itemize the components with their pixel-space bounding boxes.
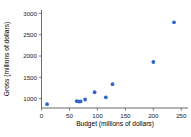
x-tick-label: 150 (120, 112, 131, 119)
y-tick-label: 3000 (23, 10, 37, 17)
axes-group (42, 10, 189, 108)
data-point (172, 20, 176, 24)
y-tick-label: 1000 (23, 95, 37, 102)
x-tick-label: 50 (66, 112, 73, 119)
y-axis-ticks: 10001500200025003000 (23, 10, 41, 102)
x-tick-label: 0 (40, 112, 44, 119)
y-tick-label: 2500 (23, 31, 37, 38)
data-point (104, 95, 108, 99)
y-tick-label: 2000 (23, 52, 37, 59)
data-point (151, 60, 155, 64)
data-point (111, 82, 115, 86)
x-axis-ticks: 050100150200250 (40, 108, 187, 119)
data-points-group (45, 20, 176, 106)
x-tick-label: 250 (176, 112, 187, 119)
y-tick-label: 1500 (23, 74, 37, 81)
y-axis-title: Gross (millions of dollars) (3, 22, 11, 96)
x-tick-label: 100 (92, 112, 103, 119)
scatter-chart: 10001500200025003000 050100150200250 Bud… (0, 0, 191, 137)
x-tick-label: 200 (148, 112, 159, 119)
data-point (83, 98, 87, 102)
data-point (93, 90, 97, 94)
chart-svg: 10001500200025003000 050100150200250 Bud… (0, 0, 191, 137)
data-point (79, 99, 83, 103)
x-axis-title: Budget (millions of dollars) (76, 120, 154, 128)
data-point (45, 102, 49, 106)
